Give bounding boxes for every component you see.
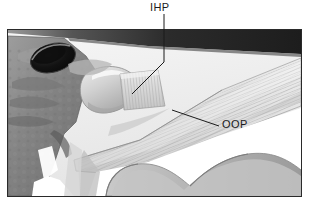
- figure-root: IHP OOP: [0, 0, 310, 204]
- label-oop: OOP: [222, 119, 248, 130]
- label-ihp: IHP: [150, 2, 170, 13]
- illustration-frame: [7, 29, 302, 197]
- anatomy-illustration: [8, 30, 301, 196]
